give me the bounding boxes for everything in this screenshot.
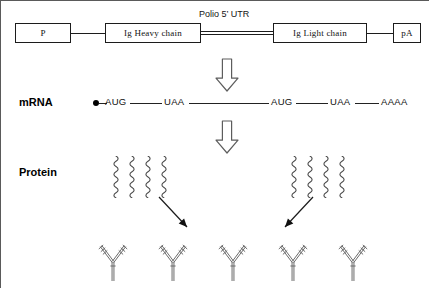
antibody-molecule-3-arm-left-1 xyxy=(282,245,294,261)
polypeptide-strand-light-1 xyxy=(308,156,312,198)
gene-box-promoter: P xyxy=(15,23,71,43)
antibody-molecule-2-hash xyxy=(241,248,245,252)
antibody-molecule-3-hash xyxy=(303,245,307,249)
polypeptide-strand-light-3 xyxy=(340,156,344,198)
antibody-molecule-3-hash xyxy=(299,250,303,254)
antibody-molecule-4-hash xyxy=(339,245,343,249)
mrna-segment-2 xyxy=(189,103,269,104)
figure-canvas: P Ig Heavy chain Ig Light chain pA Polio… xyxy=(0,0,429,288)
antibody-molecule-1 xyxy=(159,245,187,281)
connector-promoter-to-heavy xyxy=(71,33,105,34)
polypeptide-strand-light-2 xyxy=(324,156,328,198)
mrna-codon-aug-2: AUG xyxy=(271,96,293,107)
antibody-molecule-2-arm-left-0 xyxy=(220,247,232,263)
antibody-molecule-4 xyxy=(339,245,367,281)
antibody-molecule-3-arm-left-0 xyxy=(280,247,292,263)
antibody-molecule-4-arm-left-0 xyxy=(340,247,352,263)
antibody-molecule-2 xyxy=(219,245,247,281)
mrna-codon-polya-tail: AAAA xyxy=(381,96,408,107)
antibody-molecule-0-arm-right-0 xyxy=(112,245,124,261)
antibody-molecule-1-arm-right-1 xyxy=(174,247,186,263)
antibody-molecule-2-hash xyxy=(223,250,227,254)
polio-utr-double-line xyxy=(201,31,273,35)
gene-box-polya-signal-label: pA xyxy=(401,28,412,38)
diagram-vector-overlay xyxy=(1,1,429,288)
antibody-molecule-1-hash xyxy=(159,245,163,249)
antibody-molecule-4-hash xyxy=(343,250,347,254)
antibody-molecule-0-hash xyxy=(119,250,123,254)
antibody-molecule-2-arm-right-0 xyxy=(232,245,244,261)
antibody-molecule-0-hash xyxy=(99,245,103,249)
antibody-molecule-3-hash xyxy=(283,250,287,254)
translation-arrow xyxy=(216,121,238,153)
antibody-molecule-2-hash xyxy=(243,245,247,249)
antibody-molecule-4-arm-right-1 xyxy=(354,247,366,263)
polypeptide-strand-heavy-svg xyxy=(111,156,175,198)
antibody-molecule-3-arm-right-0 xyxy=(292,245,304,261)
antibody-molecule-2-hash xyxy=(239,250,243,254)
gene-box-heavy-chain-label: Ig Heavy chain xyxy=(124,28,182,38)
antibody-molecule-4-arm-right-0 xyxy=(352,245,364,261)
assembly-arrow-right-head xyxy=(285,219,293,228)
polypeptide-group-heavy-chain xyxy=(111,156,175,202)
antibody-molecule-3-arm-right-1 xyxy=(294,247,306,263)
polypeptide-strand-light-svg xyxy=(289,156,353,198)
mrna-segment-1 xyxy=(130,103,162,104)
antibody-molecule-3-hash xyxy=(301,248,305,252)
antibody-molecule-0-arm-left-0 xyxy=(100,247,112,263)
mrna-codon-uaa-2: UAA xyxy=(330,96,350,107)
antibody-molecule-4-hash xyxy=(363,245,367,249)
antibody-molecule-1-hash xyxy=(161,248,165,252)
gene-box-light-chain: Ig Light chain xyxy=(273,23,367,43)
mrna-segment-4 xyxy=(355,103,379,104)
antibody-molecule-2-arm-right-1 xyxy=(234,247,246,263)
polypeptide-strand-heavy-2 xyxy=(146,156,150,198)
antibody-molecule-4-hash xyxy=(359,250,363,254)
antibody-molecule-2-hash xyxy=(221,248,225,252)
antibody-molecule-0-arm-right-1 xyxy=(114,247,126,263)
polypeptide-strand-heavy-1 xyxy=(130,156,134,198)
gene-box-light-chain-label: Ig Light chain xyxy=(293,28,347,38)
row-label-protein: Protein xyxy=(19,166,57,178)
polypeptide-group-light-chain xyxy=(289,156,353,202)
antibody-molecule-1-arm-right-0 xyxy=(172,245,184,261)
antibody-molecule-0-hash xyxy=(123,245,127,249)
antibody-molecule-2-hash xyxy=(219,245,223,249)
polypeptide-strand-light-0 xyxy=(292,156,296,198)
antibody-molecule-1-arm-left-1 xyxy=(162,245,174,261)
gene-box-promoter-label: P xyxy=(40,28,45,38)
antibody-molecule-0 xyxy=(99,245,127,281)
mrna-codon-uaa-1: UAA xyxy=(164,96,184,107)
antibody-molecule-3-hash xyxy=(281,248,285,252)
antibody-molecule-4-hash xyxy=(341,248,345,252)
antibody-molecule-3-hash xyxy=(279,245,283,249)
antibody-molecule-0-hash xyxy=(101,248,105,252)
polypeptide-strand-heavy-0 xyxy=(114,156,118,198)
gene-box-heavy-chain: Ig Heavy chain xyxy=(105,23,201,43)
antibody-molecule-1-hash xyxy=(183,245,187,249)
row-label-mrna: mRNA xyxy=(19,96,53,108)
polio-utr-label: Polio 5’ UTR xyxy=(199,9,249,19)
mrna-segment-3 xyxy=(296,103,328,104)
antibody-molecule-1-arm-left-0 xyxy=(160,247,172,263)
antibody-molecule-0-arm-left-1 xyxy=(102,245,114,261)
connector-light-to-polya xyxy=(367,33,393,34)
antibody-molecule-4-arm-left-1 xyxy=(342,245,354,261)
antibody-molecule-1-hash xyxy=(179,250,183,254)
mrna-codon-aug-1: AUG xyxy=(105,96,127,107)
gene-box-polya-signal: pA xyxy=(393,23,421,43)
antibody-molecule-4-hash xyxy=(361,248,365,252)
antibody-molecule-3 xyxy=(279,245,307,281)
antibody-molecule-0-hash xyxy=(103,250,107,254)
antibody-molecule-0-hash xyxy=(121,248,125,252)
antibody-molecule-1-hash xyxy=(163,250,167,254)
assembly-arrow-left-head xyxy=(179,219,187,228)
polypeptide-strand-heavy-3 xyxy=(162,156,166,198)
transcription-arrow xyxy=(216,59,238,91)
antibody-molecule-1-hash xyxy=(181,248,185,252)
antibody-molecule-2-arm-left-1 xyxy=(222,245,234,261)
